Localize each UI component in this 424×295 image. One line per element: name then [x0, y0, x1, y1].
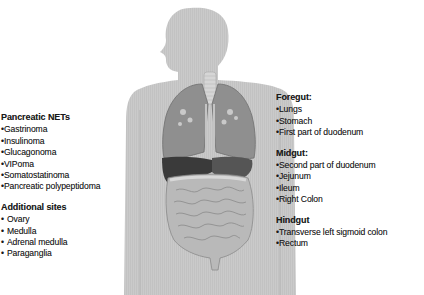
group-midgut: Midgut: •Second part of duodenum •Jejunu… [276, 148, 387, 206]
torso-anatomy-illustration [120, 0, 300, 295]
list-item: •Stomach [276, 116, 387, 127]
list-item: •Ileum [276, 183, 387, 194]
right-annotation-block: Foregut: •Lungs •Stomach •First part of … [276, 92, 387, 259]
item-label: Rectum [279, 238, 308, 248]
list-item: •Insulinoma [1, 136, 100, 147]
item-list: •Ovary •Medulla •Adrenal medulla •Paraga… [1, 214, 100, 260]
group-foregut: Foregut: •Lungs •Stomach •First part of … [276, 92, 387, 139]
left-annotation-block: Pancreatic NETs •Gastrinoma •Insulinoma … [1, 112, 100, 269]
item-label: Transverse left sigmoid colon [279, 227, 388, 237]
list-item: •Transverse left sigmoid colon [276, 227, 387, 238]
item-label: Right Colon [279, 194, 323, 204]
item-label: Pancreatic polypeptidoma [4, 181, 101, 191]
list-item: •Rectum [276, 238, 387, 249]
item-label: Gastrinoma [4, 124, 47, 134]
list-item: •Lungs [276, 104, 387, 115]
list-item: •VIPoma [1, 159, 100, 170]
item-label: Glucagonoma [4, 147, 56, 157]
bullet-icon: • [1, 248, 4, 258]
bullet-icon: • [1, 226, 4, 236]
list-item: •Jejunum [276, 171, 387, 182]
item-label: Adrenal medulla [7, 237, 68, 247]
torso-svg [120, 0, 300, 295]
item-label: Insulinoma [4, 136, 45, 146]
list-item: •Gastrinoma [1, 124, 100, 135]
bullet-icon: • [1, 237, 4, 247]
group-additional-sites: Additional sites •Ovary •Medulla •Adrena… [1, 202, 100, 260]
item-list: •Transverse left sigmoid colon •Rectum [276, 227, 387, 250]
list-item: •Somatostatinoma [1, 170, 100, 181]
item-label: Ovary [7, 214, 29, 224]
list-item: •Medulla [1, 226, 100, 237]
group-heading: Hindgut [276, 215, 387, 226]
group-heading: Additional sites [1, 202, 100, 213]
list-item: •Right Colon [276, 194, 387, 205]
list-item: •First part of duodenum [276, 127, 387, 138]
item-label: VIPoma [4, 159, 34, 169]
item-label: Paraganglia [7, 248, 52, 258]
item-label: Jejunum [279, 171, 311, 181]
list-item: •Second part of duodenum [276, 160, 387, 171]
list-item: •Glucagonoma [1, 147, 100, 158]
item-label: Lungs [279, 104, 302, 114]
list-item: •Paraganglia [1, 248, 100, 259]
list-item: •Pancreatic polypeptidoma [1, 181, 100, 192]
group-pancreatic-nets: Pancreatic NETs •Gastrinoma •Insulinoma … [1, 112, 100, 193]
list-item: •Ovary [1, 214, 100, 225]
item-label: Ileum [279, 183, 300, 193]
group-heading: Midgut: [276, 148, 387, 159]
item-list: •Gastrinoma •Insulinoma •Glucagonoma •VI… [1, 124, 100, 192]
bullet-icon: • [1, 214, 4, 224]
group-hindgut: Hindgut •Transverse left sigmoid colon •… [276, 215, 387, 250]
item-label: Somatostatinoma [4, 170, 69, 180]
list-item: •Adrenal medulla [1, 237, 100, 248]
item-label: Second part of duodenum [279, 160, 376, 170]
item-list: •Second part of duodenum •Jejunum •Ileum… [276, 160, 387, 206]
group-heading: Foregut: [276, 92, 387, 103]
group-heading: Pancreatic NETs [1, 112, 100, 123]
item-label: Medulla [7, 226, 36, 236]
item-list: •Lungs •Stomach •First part of duodenum [276, 104, 387, 138]
item-label: First part of duodenum [279, 127, 363, 137]
item-label: Stomach [279, 116, 312, 126]
